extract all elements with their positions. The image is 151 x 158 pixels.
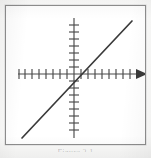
coordinate-plane-graph — [6, 6, 146, 145]
figure-caption-text: Figure 2.1 — [58, 147, 94, 152]
plot-background — [6, 6, 146, 145]
plot-frame — [5, 5, 146, 145]
figure-container: Figure 2.1 — [0, 0, 151, 158]
figure-caption: Figure 2.1 — [0, 147, 151, 158]
